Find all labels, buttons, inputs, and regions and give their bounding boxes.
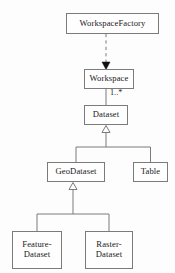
connector-factory-creates-workspace xyxy=(102,34,110,70)
class-box-workspace-factory[interactable]: WorkspaceFactory xyxy=(66,13,159,34)
hollow-triangle-icon-dataset xyxy=(102,126,110,133)
uml-class-diagram: WorkspaceFactory Workspace Dataset GeoDa… xyxy=(0,0,175,273)
connector-geodataset-generalization-tree xyxy=(37,183,109,232)
connector-dataset-generalization-tree xyxy=(76,126,151,163)
class-box-raster-dataset[interactable]: Raster- Dataset xyxy=(85,231,133,269)
multiplicity-label-dataset: 1..* xyxy=(110,88,122,97)
class-box-geodataset[interactable]: GeoDataset xyxy=(47,162,105,182)
class-box-dataset[interactable]: Dataset xyxy=(84,105,128,125)
class-box-table[interactable]: Table xyxy=(133,162,168,182)
class-box-workspace[interactable]: Workspace xyxy=(84,69,134,89)
hollow-triangle-icon-geodataset xyxy=(69,183,77,190)
class-box-feature-dataset[interactable]: Feature- Dataset xyxy=(12,231,62,269)
